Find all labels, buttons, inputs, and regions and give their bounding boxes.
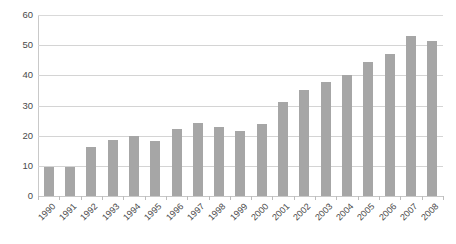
bar	[108, 140, 118, 196]
y-tick-label-60: 60	[5, 10, 33, 20]
x-tick-mark	[59, 196, 60, 200]
x-tick-label-2000: 2000	[250, 202, 271, 223]
bar	[278, 102, 288, 196]
bar-slot	[187, 15, 208, 196]
x-tick-label-1990: 1990	[37, 202, 58, 223]
x-tick-mark	[336, 196, 337, 200]
bar-slot	[81, 15, 102, 196]
x-tick-mark	[400, 196, 401, 200]
bar-slot	[38, 15, 59, 196]
x-tick-label-2008: 2008	[420, 202, 441, 223]
x-tick-mark	[422, 196, 423, 200]
x-tick-label-2006: 2006	[378, 202, 399, 223]
x-tick-mark	[230, 196, 231, 200]
y-axis-tick-labels: 0102030405060	[0, 0, 33, 244]
x-tick-label-2004: 2004	[335, 202, 356, 223]
x-tick-mark	[443, 196, 444, 200]
bar-slot	[59, 15, 80, 196]
x-tick-mark	[81, 196, 82, 200]
y-tick-label-10: 10	[5, 161, 33, 171]
x-tick-label-1991: 1991	[58, 202, 79, 223]
x-tick-mark	[315, 196, 316, 200]
x-tick-label-1995: 1995	[143, 202, 164, 223]
x-tick-mark	[187, 196, 188, 200]
bar-slot	[251, 15, 272, 196]
bar	[321, 82, 331, 196]
bar-slot	[422, 15, 443, 196]
bar	[385, 54, 395, 196]
x-tick-label-2001: 2001	[271, 202, 292, 223]
bar-slot	[123, 15, 144, 196]
bar-slot	[272, 15, 293, 196]
x-tick-mark	[251, 196, 252, 200]
bar-slot	[294, 15, 315, 196]
x-tick-label-1993: 1993	[100, 202, 121, 223]
bar	[214, 127, 224, 196]
x-tick-label-1998: 1998	[207, 202, 228, 223]
bar	[129, 136, 139, 196]
bar-slot	[400, 15, 421, 196]
bar-slot	[358, 15, 379, 196]
y-tick-label-40: 40	[5, 71, 33, 81]
bar	[193, 123, 203, 196]
x-tick-mark	[379, 196, 380, 200]
bar-slot	[379, 15, 400, 196]
x-tick-label-2002: 2002	[292, 202, 313, 223]
bar-slot	[166, 15, 187, 196]
x-tick-mark	[358, 196, 359, 200]
bar-chart: 0102030405060 19901991199219931994199519…	[0, 0, 456, 244]
bar	[44, 167, 54, 196]
plot-area	[38, 15, 443, 196]
y-tick-label-20: 20	[5, 131, 33, 141]
x-tick-label-1992: 1992	[79, 202, 100, 223]
x-tick-mark	[102, 196, 103, 200]
bar	[257, 124, 267, 196]
bar-slot	[315, 15, 336, 196]
bar	[86, 147, 96, 196]
x-tick-mark	[294, 196, 295, 200]
x-tick-label-2005: 2005	[356, 202, 377, 223]
x-tick-label-1994: 1994	[122, 202, 143, 223]
bar	[406, 36, 416, 196]
x-tick-mark	[166, 196, 167, 200]
gridline-0	[38, 196, 443, 197]
x-tick-label-1999: 1999	[228, 202, 249, 223]
x-tick-mark	[209, 196, 210, 200]
bar	[299, 90, 309, 196]
bar	[427, 41, 437, 196]
y-tick-label-30: 30	[5, 101, 33, 111]
bar	[363, 62, 373, 196]
x-tick-mark	[123, 196, 124, 200]
x-tick-mark	[272, 196, 273, 200]
x-tick-label-1997: 1997	[186, 202, 207, 223]
bar	[235, 131, 245, 196]
x-tick-mark	[145, 196, 146, 200]
bar-slot	[336, 15, 357, 196]
y-tick-label-50: 50	[5, 40, 33, 50]
bar-slot	[209, 15, 230, 196]
x-tick-label-2007: 2007	[399, 202, 420, 223]
y-tick-label-0: 0	[5, 191, 33, 201]
x-tick-mark	[38, 196, 39, 200]
bar-slot	[145, 15, 166, 196]
x-tick-label-2003: 2003	[314, 202, 335, 223]
bar	[172, 129, 182, 196]
x-tick-label-1996: 1996	[164, 202, 185, 223]
bar	[150, 141, 160, 197]
bar-slot	[230, 15, 251, 196]
bar	[342, 75, 352, 196]
bar-slot	[102, 15, 123, 196]
bar	[65, 167, 75, 196]
